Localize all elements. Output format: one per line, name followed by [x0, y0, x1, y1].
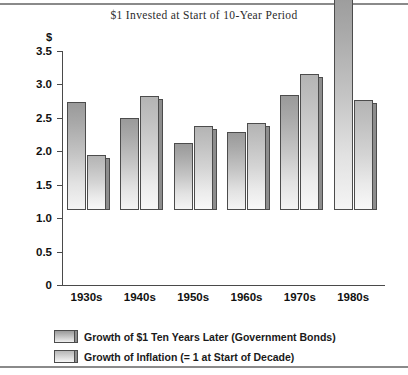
bar-1970s-series-1 — [280, 95, 299, 210]
bar-1950s-series-1 — [174, 143, 193, 210]
y-axis-unit-label: $ — [46, 31, 52, 43]
x-axis-label-1950s: 1950s — [164, 291, 223, 303]
bar-1980s-series-2 — [354, 100, 373, 210]
y-axis-tick — [57, 218, 62, 219]
y-axis-tick — [57, 151, 62, 152]
chart-legend: Growth of $1 Ten Years Later (Government… — [54, 328, 336, 368]
y-axis-tick-label: 0 — [0, 280, 52, 290]
x-axis-label-1960s: 1960s — [217, 291, 276, 303]
legend-item-series-1: Growth of $1 Ten Years Later (Government… — [54, 328, 336, 345]
legend-swatch-icon-series-1 — [54, 330, 75, 343]
legend-item-series-2: Growth of Inflation (= 1 at Start of Dec… — [54, 348, 336, 365]
y-axis-tick-label: 1.0 — [0, 213, 52, 223]
y-axis-tick — [57, 185, 62, 186]
bar-1940s-series-1 — [120, 118, 139, 210]
bar-1930s-series-1 — [67, 102, 86, 210]
bar-1940s-series-2 — [140, 96, 159, 210]
legend-label-series-2: Growth of Inflation (= 1 at Start of Dec… — [84, 351, 294, 363]
y-axis-tick-label: 1.5 — [0, 180, 52, 190]
x-axis-label-1970s: 1970s — [270, 291, 329, 303]
x-axis-label-1930s: 1930s — [57, 291, 116, 303]
y-axis-tick — [57, 84, 62, 85]
y-axis-tick — [57, 51, 62, 52]
y-axis-tick — [57, 118, 62, 119]
y-axis-tick-label: 2.0 — [0, 146, 52, 156]
bar-1930s-series-2 — [87, 155, 106, 210]
y-axis-tick-label: 3.0 — [0, 79, 52, 89]
bar-1960s-series-1 — [227, 132, 246, 210]
y-axis-tick-label: 2.5 — [0, 113, 52, 123]
bar-1960s-series-2 — [247, 123, 266, 210]
x-axis-line — [62, 285, 385, 286]
y-axis-tick — [57, 285, 62, 286]
legend-swatch-icon-series-2 — [54, 350, 75, 363]
y-axis-line — [62, 51, 63, 286]
y-axis-tick-label: 0.5 — [0, 247, 52, 257]
y-axis-tick — [57, 252, 62, 253]
chart-page: $1 Invested at Start of 10-Year Period $… — [0, 0, 408, 375]
bar-1980s-series-1 — [334, 0, 353, 210]
x-axis-label-1940s: 1940s — [110, 291, 169, 303]
bar-1970s-series-2 — [300, 74, 319, 210]
x-axis-label-1980s: 1980s — [324, 291, 383, 303]
plot-area: $ 00.51.01.52.02.53.03.5 1930s1940s1950s… — [0, 0, 408, 300]
bar-1950s-series-2 — [194, 126, 213, 210]
y-axis-tick-label: 3.5 — [0, 46, 52, 56]
legend-label-series-1: Growth of $1 Ten Years Later (Government… — [84, 331, 336, 343]
